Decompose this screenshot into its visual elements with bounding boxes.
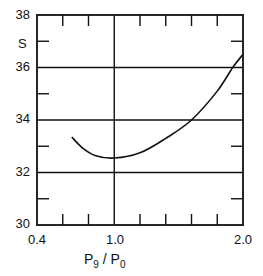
y-axis-label: S xyxy=(18,36,27,51)
x-tick-label-2.0: 2.0 xyxy=(228,232,258,247)
x-tick-label-0.4: 0.4 xyxy=(22,232,52,247)
x-label-slash: / xyxy=(99,251,111,267)
x-axis-label: P9 / P0 xyxy=(84,251,125,270)
y-tick-label-38: 38 xyxy=(2,7,30,22)
data-curve xyxy=(72,54,243,158)
x-label-p9: P xyxy=(84,251,93,267)
y-tick-label-34: 34 xyxy=(2,111,30,126)
x-tick-label-1.0: 1.0 xyxy=(100,232,130,247)
y-tick-label-32: 32 xyxy=(2,164,30,179)
y-tick-label-30: 30 xyxy=(2,216,30,231)
y-tick-label-36: 36 xyxy=(2,59,30,74)
x-label-p0: P xyxy=(111,251,120,267)
x-label-sub-0: 0 xyxy=(120,259,126,270)
